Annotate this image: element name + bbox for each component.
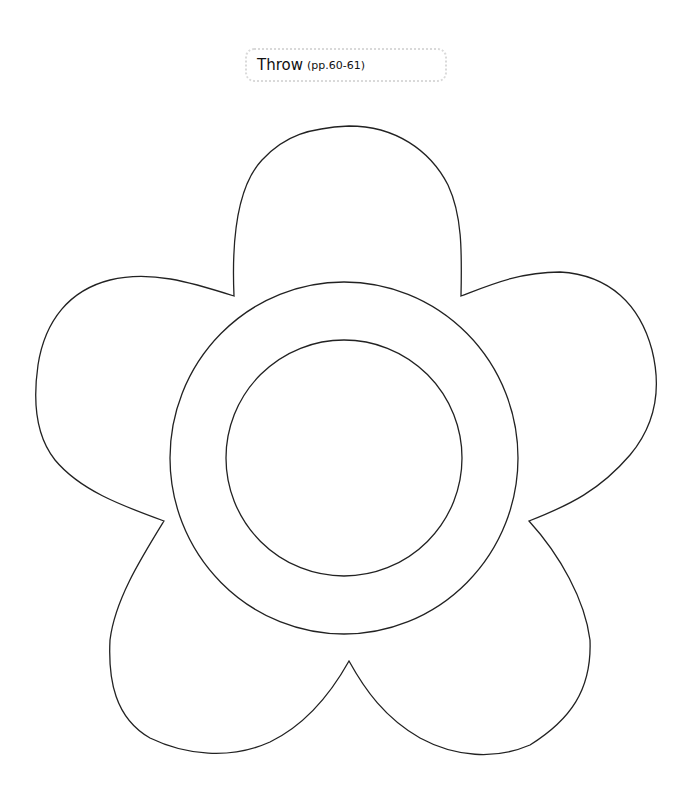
flower-template bbox=[0, 0, 693, 787]
flower-petals-outline bbox=[36, 126, 657, 755]
inner-circle bbox=[226, 340, 462, 576]
outer-ring bbox=[170, 282, 518, 634]
